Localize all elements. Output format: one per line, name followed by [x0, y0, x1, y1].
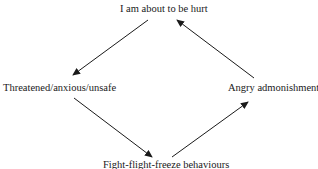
cycle-diagram: I am about to be hurt Threatened/anxious…	[0, 0, 318, 169]
arrow-right-to-top	[177, 20, 254, 78]
arrow-left-to-bottom	[74, 98, 152, 157]
node-about-to-be-hurt: I am about to be hurt	[120, 4, 208, 15]
node-threatened-anxious-unsafe: Threatened/anxious/unsafe	[3, 83, 116, 94]
arrow-bottom-to-right	[172, 102, 248, 157]
node-fight-flight-freeze: Fight-flight-freeze behaviours	[103, 160, 229, 169]
node-angry-admonishment: Angry admonishment	[228, 83, 318, 94]
arrow-top-to-left	[73, 20, 148, 75]
